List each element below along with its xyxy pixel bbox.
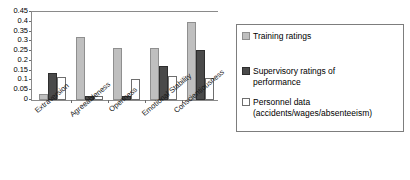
bar [76,37,85,100]
chart-legend: Training ratings Supervisory ratings of … [236,24,404,132]
legend-label-training-ratings: Training ratings [253,31,311,42]
x-axis-labels: ExtraversionAgreeablenessOpennessEmotion… [0,101,225,180]
bar [150,48,159,100]
legend-label-personnel-data: Personnel data [253,97,310,108]
y-axis-tick-label: 0.4 [18,17,28,25]
y-axis-tick-label: 0.15 [13,66,28,74]
legend-label-supervisory-ratings: Supervisory ratings of [253,66,335,77]
legend-swatch-training-ratings-icon [242,32,250,40]
y-axis-tick-label: 0.2 [18,56,28,64]
legend-swatch-supervisory-ratings-icon [242,67,250,75]
legend-item-training-ratings: Training ratings [242,31,399,42]
legend-label-supervisory-ratings-line2: performance [253,77,301,88]
y-axis-tick-label: 0.45 [13,7,28,15]
legend-swatch-personnel-data-icon [242,98,250,106]
y-axis: 0.450.40.350.30.250.20.150.10.050 [0,0,32,112]
bar [113,48,122,100]
y-axis-tick-label: 0.25 [13,46,28,54]
y-axis-tick-label: 0.3 [18,36,28,44]
y-axis-tick-label: 0.1 [18,75,28,83]
legend-item-personnel-data: Personnel data [242,97,399,108]
bar-group [108,12,145,100]
legend-item-supervisory-ratings: Supervisory ratings of [242,66,399,77]
y-axis-tick-label: 0.35 [13,27,28,35]
bar-chart-figure: 0.450.40.350.30.250.20.150.10.050 Extrav… [0,0,410,180]
y-axis-tick-label: 0.05 [13,85,28,93]
legend-label-personnel-data-line2: (accidents/wages/absenteeism) [253,108,372,119]
